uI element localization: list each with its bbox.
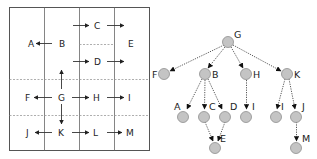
grid-cell-e: E bbox=[128, 39, 134, 49]
edge-g-f bbox=[170, 45, 224, 71]
tree-node-k bbox=[282, 69, 293, 80]
grid-cell-d: D bbox=[94, 57, 101, 67]
tree-label-a: A bbox=[174, 101, 181, 112]
tree-label-f: F bbox=[152, 69, 157, 80]
tree-node-m bbox=[291, 143, 302, 154]
tree-node-g bbox=[223, 37, 234, 48]
tree-label-h: H bbox=[253, 69, 260, 80]
edge-g-h bbox=[231, 47, 243, 68]
edge-g-k bbox=[233, 45, 281, 71]
tree-node-j bbox=[291, 112, 302, 123]
grid-cell-f: F bbox=[25, 93, 30, 103]
grid-cell-c: C bbox=[94, 21, 100, 31]
tree-node-b bbox=[200, 69, 211, 80]
edge-g-b bbox=[208, 47, 225, 68]
edge-b-c bbox=[205, 80, 206, 109]
tree-node-a bbox=[178, 112, 189, 123]
tree-label-d: D bbox=[230, 101, 237, 112]
tree-node-e bbox=[210, 143, 221, 154]
grid-cell-b: B bbox=[59, 39, 65, 49]
tree-node-c bbox=[199, 112, 210, 123]
tree-label-i1: I bbox=[252, 101, 255, 112]
edge-k-j bbox=[289, 79, 295, 109]
diagram-canvas: A B C D E F G H I J K L M bbox=[0, 0, 317, 159]
tree-node-h bbox=[241, 69, 252, 80]
grid-cell-k: K bbox=[58, 128, 65, 138]
grid-cell-h: H bbox=[93, 93, 100, 103]
grid-cell-j: J bbox=[25, 128, 29, 138]
tree-label-j: J bbox=[301, 101, 305, 112]
grid-cell-l: L bbox=[93, 128, 98, 138]
tree-node-f bbox=[159, 69, 170, 80]
tree-node-d bbox=[220, 112, 231, 123]
tree-node-i2 bbox=[271, 112, 282, 123]
edge-c-e bbox=[205, 122, 213, 141]
tree-edges bbox=[170, 45, 297, 141]
tree-label-i2: I bbox=[281, 101, 284, 112]
tree-label-m: M bbox=[302, 133, 310, 144]
tree-label-g: G bbox=[234, 29, 241, 40]
tree-nodes bbox=[159, 37, 302, 154]
grid-cell-m: M bbox=[126, 128, 134, 138]
tree-label-b: B bbox=[212, 69, 219, 80]
grid-arrows bbox=[34, 26, 124, 133]
grid-cell-g: G bbox=[58, 93, 65, 103]
edge-b-a bbox=[187, 79, 202, 109]
grid-cell-a: A bbox=[28, 39, 35, 49]
tree-label-c: C bbox=[209, 101, 216, 112]
tree-node-i1 bbox=[241, 112, 252, 123]
search-tree: G F B H K A C D I I J E M bbox=[152, 29, 310, 154]
grid-world: A B C D E F G H I J K L M bbox=[10, 8, 150, 151]
tree-label-k: K bbox=[294, 69, 301, 80]
grid-cell-i: I bbox=[128, 93, 131, 103]
tree-label-e: E bbox=[220, 133, 226, 144]
